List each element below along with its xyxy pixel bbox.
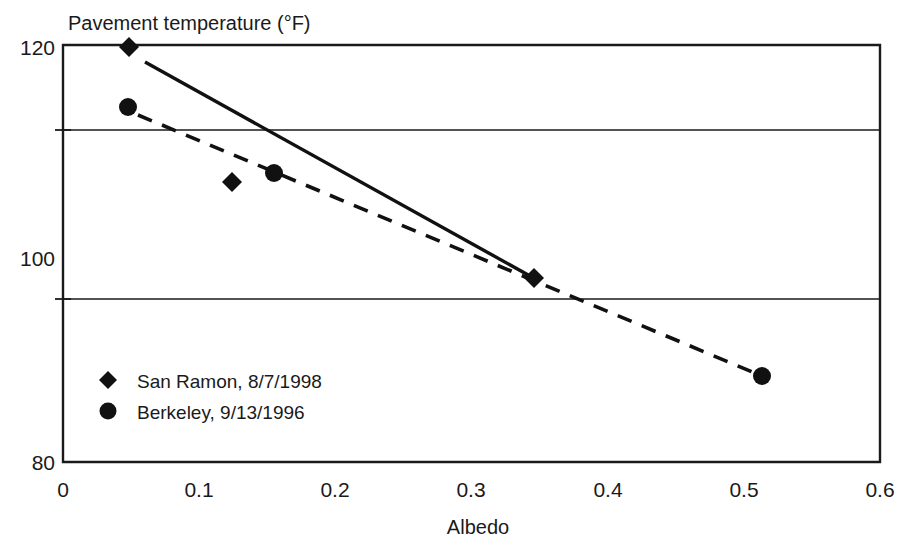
y-tick-label-100: 100 [20, 247, 55, 270]
data-point-san-ramon-3 [524, 268, 544, 288]
legend-label-berkeley: Berkeley, 9/13/1996 [137, 402, 305, 423]
x-tick-label-0-6: 0.6 [865, 478, 894, 501]
data-point-berkeley-1 [119, 98, 137, 116]
y-tick-label-80: 80 [32, 451, 55, 474]
data-point-san-ramon-1 [119, 37, 139, 57]
x-tick-label-0-3: 0.3 [456, 478, 485, 501]
x-tick-label-0-5: 0.5 [729, 478, 758, 501]
chart-legend: San Ramon, 8/7/1998 Berkeley, 9/13/1996 [99, 371, 322, 423]
y-axis-title: Pavement temperature (°F) [68, 12, 311, 34]
legend-marker-diamond-icon [99, 371, 117, 389]
chart-figure: Pavement temperature (°F) 120 100 80 0 0… [0, 0, 909, 542]
data-point-berkeley-2 [265, 164, 283, 182]
trend-line-berkeley [138, 115, 762, 376]
data-point-san-ramon-2 [222, 172, 242, 192]
x-tick-label-0-1: 0.1 [184, 478, 213, 501]
data-point-berkeley-3 [753, 367, 771, 385]
legend-label-san-ramon: San Ramon, 8/7/1998 [137, 371, 322, 392]
x-axis-title: Albedo [447, 516, 509, 538]
x-tick-label-0: 0 [57, 478, 69, 501]
plot-frame [63, 45, 880, 462]
x-tick-label-0-2: 0.2 [320, 478, 349, 501]
x-tick-label-0-4: 0.4 [593, 478, 623, 501]
trend-line-san-ramon [145, 62, 539, 281]
legend-marker-circle-icon [100, 403, 117, 420]
y-tick-label-120: 120 [20, 36, 55, 59]
pavement-temperature-albedo-chart: Pavement temperature (°F) 120 100 80 0 0… [0, 0, 909, 542]
